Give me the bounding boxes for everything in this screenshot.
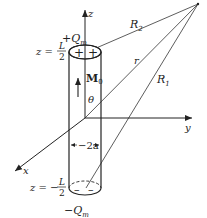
r2-label: R2 (129, 18, 143, 33)
bottom-sign-1: – (74, 183, 80, 196)
bottom-charge-label: −Qm (64, 204, 89, 218)
diagram-canvas: −2a + + – – z y x +Qm −Qm z = L 2 z = − … (0, 0, 207, 218)
z-axis-label: z (87, 8, 94, 19)
field-point (197, 3, 199, 5)
bottom-position-den: 2 (59, 188, 65, 198)
bottom-sign-2: – (88, 183, 94, 196)
top-position-den: 2 (59, 52, 65, 62)
top-position-num: L (58, 41, 65, 51)
diameter-arrow-left (71, 143, 75, 147)
r-label: r (134, 55, 140, 66)
top-sign-2: + (88, 46, 98, 60)
r-line (85, 4, 198, 118)
top-sign-1: + (74, 46, 84, 60)
theta-label: θ (88, 94, 94, 105)
top-charge-label: +Qm (62, 32, 87, 47)
x-axis-label: x (23, 165, 29, 176)
y-axis-label: y (184, 122, 191, 133)
bottom-position-num: L (58, 177, 65, 187)
bottom-position-prefix: z = − (29, 182, 58, 193)
diameter-label: −2a (78, 140, 99, 151)
magnetization-label: M0 (86, 72, 103, 86)
r1-label: R1 (156, 73, 170, 88)
top-position-prefix: z = (35, 46, 53, 57)
